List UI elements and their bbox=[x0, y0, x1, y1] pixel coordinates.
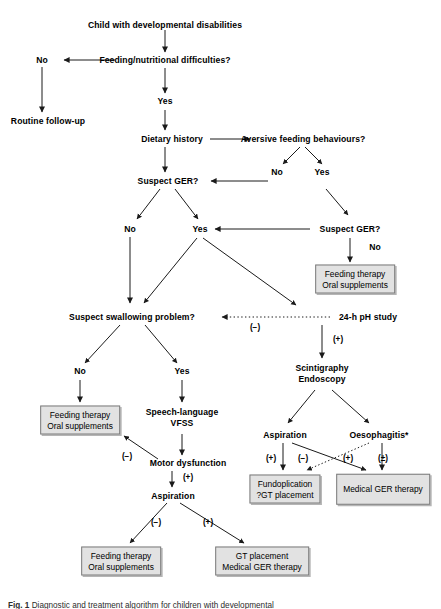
node-swallow-no: No bbox=[74, 366, 86, 377]
node-aversive-feeding: Aversive feeding behaviours? bbox=[241, 134, 366, 145]
node-oesophagitis: Oesophagitis* bbox=[349, 430, 408, 441]
node-dietary-history: Dietary history bbox=[141, 134, 203, 145]
node-suspect-ger-right: Suspect GER? bbox=[320, 224, 381, 235]
box-line-2: Oral supplements bbox=[322, 279, 388, 290]
node-ger-left-no: No bbox=[124, 224, 136, 235]
node-ger-left-yes: Yes bbox=[192, 224, 207, 235]
box-line-1: Feeding therapy bbox=[47, 410, 113, 421]
box-fundoplication: Fundoplication ?GT placement bbox=[249, 475, 320, 504]
edge-label-motor-positive: (+) bbox=[183, 473, 193, 482]
box-line-2: Oral supplements bbox=[88, 561, 154, 572]
node-scintigraphy-endoscopy: Scintigraphy Endoscopy bbox=[295, 363, 348, 385]
node-aversive-yes: Yes bbox=[314, 167, 329, 178]
node-aversive-no: No bbox=[271, 167, 283, 178]
node-suspect-ger-left: Suspect GER? bbox=[138, 176, 199, 187]
node-yes-feeding: Yes bbox=[157, 96, 172, 107]
flowchart-connectors bbox=[0, 0, 441, 609]
edge-label-ph-positive: (+) bbox=[333, 335, 343, 344]
figure-caption: Fig. 1 Diagnostic and treatment algorith… bbox=[8, 600, 436, 609]
caption-text: Diagnostic and treatment algorithm for c… bbox=[32, 601, 274, 609]
speech-line-1: Speech-language bbox=[146, 407, 219, 418]
box-medical-ger-therapy: Medical GER therapy bbox=[336, 474, 430, 505]
node-suspect-swallowing: Suspect swallowing problem? bbox=[69, 312, 195, 323]
edge-label-asp-right-negative: (−) bbox=[298, 454, 308, 463]
node-motor-dysfunction: Motor dysfunction bbox=[150, 458, 227, 469]
node-ph-study: 24-h pH study bbox=[339, 312, 397, 323]
node-feeding-difficulties: Feeding/nutritional difficulties? bbox=[99, 55, 230, 66]
box-gt-placement-medical: GT placement Medical GER therapy bbox=[215, 547, 309, 576]
box-feeding-therapy-left: Feeding therapy Oral supplements bbox=[40, 406, 120, 435]
node-routine-followup: Routine follow-up bbox=[11, 116, 85, 127]
speech-line-2: VFSS bbox=[146, 418, 219, 429]
box-feeding-therapy-bottom: Feeding therapy Oral supplements bbox=[81, 547, 161, 576]
edge-label-oeso-positive: (+) bbox=[343, 454, 353, 463]
box-feeding-therapy-right: Feeding therapy Oral supplements bbox=[315, 265, 395, 294]
edge-label-ph-negative: (−) bbox=[250, 323, 260, 332]
node-no-feeding: No bbox=[36, 55, 48, 66]
box-line-1: Medical GER therapy bbox=[343, 484, 423, 495]
edge-label-asp-left-positive: (+) bbox=[203, 518, 213, 527]
edge-label-motor-negative: (−) bbox=[122, 452, 132, 461]
flowchart-figure: Child with developmental disabilities Fe… bbox=[0, 0, 441, 609]
box-line-2: ?GT placement bbox=[256, 489, 313, 500]
box-line-2: Medical GER therapy bbox=[222, 561, 302, 572]
node-swallow-yes: Yes bbox=[174, 366, 189, 377]
node-speech-vfss: Speech-language VFSS bbox=[146, 407, 219, 429]
edge-label-oeso-plusminus: (±) bbox=[378, 454, 388, 463]
box-line-1: Feeding therapy bbox=[88, 551, 154, 562]
box-line-1: Feeding therapy bbox=[322, 269, 388, 280]
scintigraphy-line-1: Scintigraphy bbox=[295, 363, 348, 374]
box-line-1: Fundoplication bbox=[256, 479, 313, 490]
scintigraphy-line-2: Endoscopy bbox=[295, 374, 348, 385]
node-aspiration-right: Aspiration bbox=[263, 430, 307, 441]
node-aspiration-left: Aspiration bbox=[151, 491, 195, 502]
edge-label-asp-right-positive: (+) bbox=[266, 454, 276, 463]
caption-label: Fig. 1 bbox=[8, 601, 29, 609]
node-ger-right-no: No bbox=[369, 242, 381, 253]
box-line-1: GT placement bbox=[222, 551, 302, 562]
box-line-2: Oral supplements bbox=[47, 420, 113, 431]
node-root: Child with developmental disabilities bbox=[88, 20, 242, 31]
edge-label-asp-left-negative: (−) bbox=[151, 518, 161, 527]
